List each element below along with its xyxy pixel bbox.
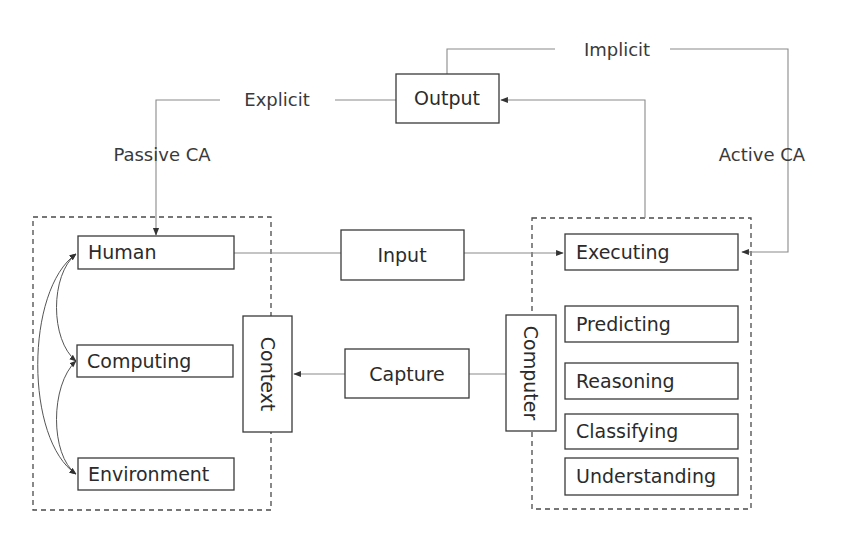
predicting-label: Predicting [576,313,671,335]
implicit-label: Implicit [584,39,650,60]
predicting-node: Predicting [565,306,738,342]
explicit-connector [156,100,396,235]
classifying-node: Classifying [565,414,738,449]
explicit-label: Explicit [244,89,309,110]
human-label: Human [88,241,157,263]
classifying-label: Classifying [576,420,678,442]
understanding-label: Understanding [576,465,716,487]
computing-node: Computing [77,345,233,377]
output-label: Output [414,87,480,109]
computing-label: Computing [87,350,191,372]
human-environment-curve [38,254,76,474]
input-node: Input [341,230,464,280]
understanding-node: Understanding [565,458,738,495]
environment-node: Environment [78,458,234,490]
environment-label: Environment [88,463,209,485]
executing-node: Executing [565,234,738,270]
computer-label: Computer [520,326,542,421]
input-label: Input [377,244,426,266]
active-ca-label: Active CA [719,144,806,165]
reasoning-node: Reasoning [565,363,738,399]
context-awareness-diagram: Implicit Explicit Passive CA Active CA O… [0,0,860,539]
human-node: Human [78,236,234,269]
human-computing-curve [57,254,77,361]
executing-label: Executing [576,241,670,263]
context-label: Context [257,337,279,411]
capture-node: Capture [345,349,469,398]
context-node: Context [243,316,292,432]
computer-node: Computer [506,315,556,431]
capture-label: Capture [369,363,445,385]
executing-to-output-connector [501,100,645,218]
passive-ca-label: Passive CA [113,144,211,165]
reasoning-label: Reasoning [576,370,675,392]
output-node: Output [396,74,499,123]
